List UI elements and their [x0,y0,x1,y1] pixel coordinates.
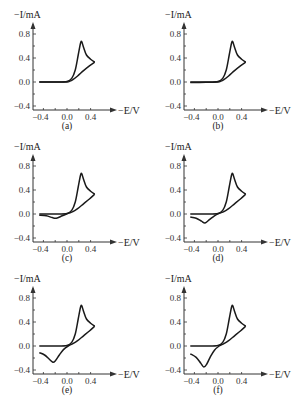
panel-caption: (c) [62,253,73,264]
panel-d: 0.80.40.0−0.4−0.40.00.4−I/mA−E/V(d) [151,132,302,264]
x-tick-label: 0.4 [236,112,248,122]
cv-curve-reverse-scan [39,326,94,362]
x-tick-label: 0.4 [85,376,97,386]
cv-chart: 0.80.40.0−0.4−0.40.00.4−I/mA−E/V(c) [0,132,151,264]
x-axis-label: −E/V [269,237,292,248]
x-axis-label: −E/V [118,237,141,248]
y-tick-label: −0.4 [14,101,31,111]
panel-caption: (f) [213,385,223,396]
x-tick-label: 0.4 [85,112,97,122]
panel-f: 0.80.40.0−0.4−0.40.00.4−I/mA−E/V(f) [151,264,302,396]
x-axis-label: −E/V [118,369,141,380]
cv-curve-forward-scan [190,41,245,82]
x-axis-label: −E/V [269,369,292,380]
y-tick-label: 0.0 [19,77,31,87]
y-tick-label: 0.8 [19,161,31,171]
cv-curve-reverse-scan [190,194,245,223]
y-tick-label: −0.4 [14,233,31,243]
x-tick-label: 0.4 [85,244,97,254]
x-tick-label: −0.4 [32,112,49,122]
y-tick-label: −0.4 [14,365,31,375]
panel-caption: (d) [212,253,223,264]
y-axis-arrow-icon [182,154,187,161]
x-axis-arrow-icon [261,240,268,245]
y-tick-label: −0.4 [165,101,182,111]
x-axis-label: −E/V [118,105,141,116]
y-tick-label: 0.0 [170,77,182,87]
y-tick-label: 0.8 [170,161,182,171]
y-axis-arrow-icon [31,22,36,29]
y-axis-label: −I/mA [165,273,193,284]
y-axis-label: −I/mA [14,141,42,152]
y-tick-label: 0.4 [19,185,31,195]
y-tick-label: −0.4 [165,365,182,375]
x-axis-arrow-icon [261,108,268,113]
y-axis-label: −I/mA [165,9,193,20]
y-tick-label: 0.4 [170,185,182,195]
x-tick-label: −0.4 [32,376,49,386]
panel-c: 0.80.40.0−0.4−0.40.00.4−I/mA−E/V(c) [0,132,151,264]
x-tick-label: −0.4 [183,244,200,254]
cv-curve-forward-scan [190,173,245,214]
cv-curve-forward-scan [39,41,94,82]
x-axis-arrow-icon [110,240,117,245]
y-tick-label: 0.8 [19,293,31,303]
y-axis-label: −I/mA [165,141,193,152]
cv-chart: 0.80.40.0−0.4−0.40.00.4−I/mA−E/V(e) [0,264,151,396]
cv-chart: 0.80.40.0−0.4−0.40.00.4−I/mA−E/V(f) [151,264,302,396]
x-tick-label: −0.4 [183,376,200,386]
cv-curve-forward-scan [39,305,94,346]
cv-chart: 0.80.40.0−0.4−0.40.00.4−I/mA−E/V(b) [151,0,302,132]
y-tick-label: 0.4 [19,53,31,63]
x-axis-label: −E/V [269,105,292,116]
y-axis-label: −I/mA [14,9,42,20]
cv-curve-reverse-scan [190,62,245,82]
x-axis-arrow-icon [261,372,268,377]
x-tick-label: 0.4 [236,376,248,386]
panel-b: 0.80.40.0−0.4−0.40.00.4−I/mA−E/V(b) [151,0,302,132]
x-tick-label: 0.4 [236,244,248,254]
cv-curve-reverse-scan [39,62,94,82]
cv-chart: 0.80.40.0−0.4−0.40.00.4−I/mA−E/V(d) [151,132,302,264]
y-tick-label: 0.0 [170,341,182,351]
y-axis-arrow-icon [31,154,36,161]
x-axis-arrow-icon [110,108,117,113]
y-tick-label: 0.8 [170,293,182,303]
figure-grid: 0.80.40.0−0.4−0.40.00.4−I/mA−E/V(a) 0.80… [0,0,302,397]
cv-curve-forward-scan [39,173,94,214]
y-tick-label: 0.4 [170,317,182,327]
x-tick-label: −0.4 [32,244,49,254]
y-tick-label: 0.0 [19,341,31,351]
panel-a: 0.80.40.0−0.4−0.40.00.4−I/mA−E/V(a) [0,0,151,132]
cv-chart: 0.80.40.0−0.4−0.40.00.4−I/mA−E/V(a) [0,0,151,132]
y-tick-label: 0.8 [19,29,31,39]
y-tick-label: 0.4 [19,317,31,327]
x-axis-arrow-icon [110,372,117,377]
panel-caption: (b) [212,121,223,132]
y-tick-label: 0.4 [170,53,182,63]
panel-caption: (e) [62,385,73,396]
y-axis-label: −I/mA [14,273,42,284]
y-axis-arrow-icon [31,286,36,293]
x-tick-label: −0.4 [183,112,200,122]
y-tick-label: 0.0 [19,209,31,219]
y-tick-label: −0.4 [165,233,182,243]
y-axis-arrow-icon [182,22,187,29]
y-axis-arrow-icon [182,286,187,293]
y-tick-label: 0.8 [170,29,182,39]
y-tick-label: 0.0 [170,209,182,219]
panel-e: 0.80.40.0−0.4−0.40.00.4−I/mA−E/V(e) [0,264,151,396]
panel-caption: (a) [62,121,73,132]
cv-curve-forward-scan [190,305,245,346]
